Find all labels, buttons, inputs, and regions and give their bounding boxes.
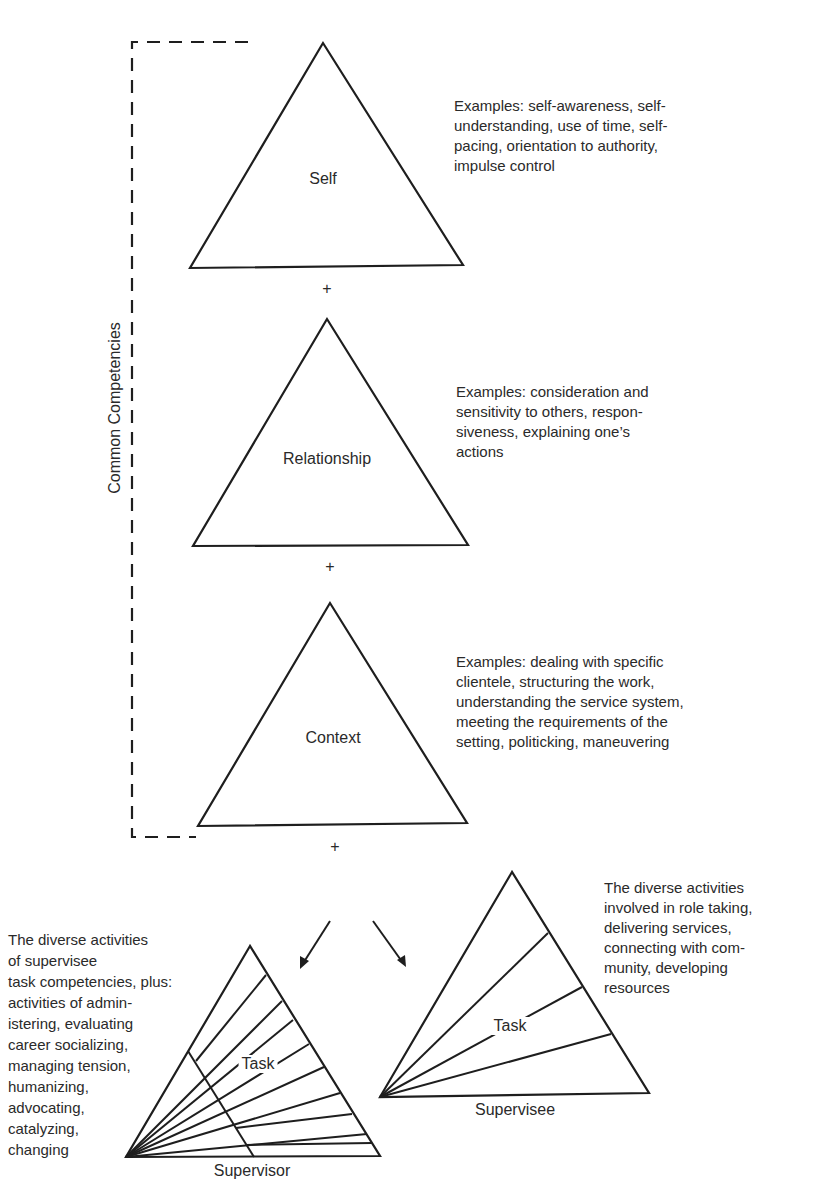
self-triangle (190, 43, 463, 268)
supervisee-description: The diverse activities involved in role … (604, 878, 752, 998)
relationship-examples: Examples: consideration and sensitivity … (456, 382, 649, 462)
supervisee-task-label: Task (491, 1017, 530, 1035)
supervisor-task-label: Task (239, 1055, 278, 1073)
context-examples: Examples: dealing with specific clientel… (456, 652, 684, 752)
relationship-triangle (193, 319, 468, 546)
common-competencies-bracket (132, 42, 248, 837)
arrow-to-supervisee-icon (373, 921, 406, 967)
context-label: Context (305, 729, 360, 747)
supervisor-description: The diverse activities of supervisee tas… (8, 929, 172, 1160)
context-triangle (198, 603, 467, 826)
plus-sign: + (325, 558, 334, 576)
self-examples: Examples: self-awareness, self- understa… (454, 96, 667, 176)
arrow-to-supervisor-icon (300, 921, 330, 969)
supervisor-label: Supervisor (214, 1162, 290, 1180)
relationship-label: Relationship (283, 450, 371, 468)
plus-sign: + (322, 280, 331, 298)
supervisee-label: Supervisee (475, 1101, 555, 1119)
common-competencies-label: Common Competencies (106, 322, 124, 494)
plus-sign: + (330, 838, 339, 856)
self-label: Self (309, 170, 337, 188)
